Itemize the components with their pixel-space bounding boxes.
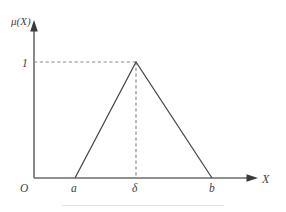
membership-function-curve — [75, 62, 212, 178]
caption-rule-divider — [62, 205, 224, 206]
x-axis — [34, 174, 258, 182]
x-tick-label-delta: δ — [132, 182, 138, 194]
y-axis-label: μ(X) — [10, 15, 31, 28]
y-tick-label-one: 1 — [22, 57, 28, 69]
x-tick-label-a: a — [71, 182, 77, 194]
x-axis-arrow-icon — [247, 174, 259, 182]
figure-container: μ(X) X O 1 a δ b — [0, 0, 286, 212]
x-tick-label-b: b — [209, 182, 215, 194]
y-axis — [30, 20, 38, 178]
triangular-membership-chart: μ(X) X O 1 a δ b — [0, 0, 286, 212]
origin-label: O — [20, 182, 29, 194]
y-axis-arrow-icon — [30, 20, 38, 32]
x-axis-label: X — [261, 172, 270, 186]
guide-lines — [34, 62, 136, 178]
